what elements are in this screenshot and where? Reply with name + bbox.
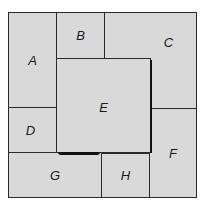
piece-e-shadow-bottom <box>58 152 100 155</box>
piece-d-label: D <box>26 123 35 138</box>
piece-b: B <box>56 12 105 59</box>
piece-d: D <box>8 107 57 153</box>
piece-e-label: E <box>99 100 108 115</box>
piece-c-label: C <box>164 35 173 50</box>
piece-g-label: G <box>50 168 60 183</box>
piece-a: A <box>8 12 57 108</box>
piece-h: H <box>101 153 150 198</box>
piece-f: F <box>149 108 197 198</box>
piece-e: E <box>56 58 151 153</box>
piece-b-label: B <box>76 28 85 43</box>
piece-e-shadow-right <box>150 60 152 153</box>
piece-h-label: H <box>121 168 130 183</box>
piece-a-label: A <box>28 53 37 68</box>
piece-g: G <box>8 152 102 198</box>
piece-f-label: F <box>169 146 177 161</box>
